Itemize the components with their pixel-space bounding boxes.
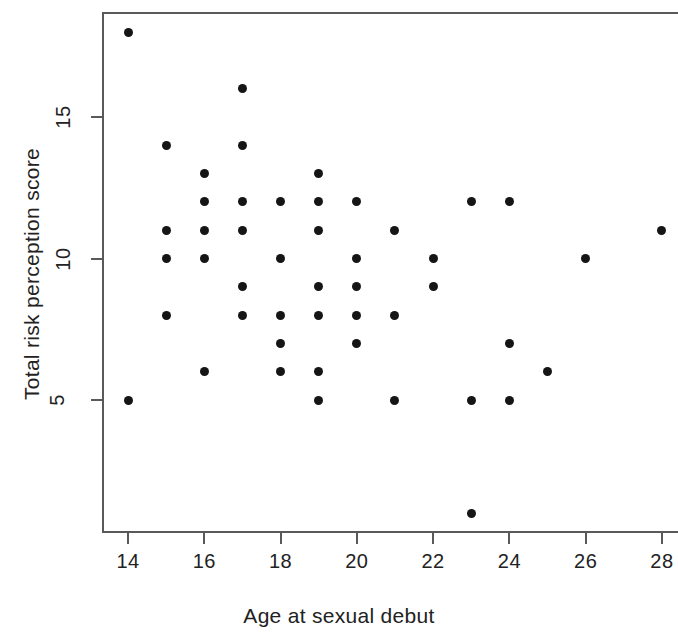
x-tick-label-14: 14 [116,550,139,573]
x-tick-26 [585,533,587,544]
x-tick-28 [661,533,663,544]
x-tick-label-22: 22 [421,550,444,573]
x-tick-label-26: 26 [574,550,597,573]
x-tick-20 [356,533,358,544]
y-tick-10 [91,258,102,260]
y-tick-label-15: 15 [52,105,75,128]
x-tick-label-20: 20 [345,550,368,573]
x-tick-22 [432,533,434,544]
y-tick-label-5: 5 [46,394,69,406]
y-tick-15 [91,116,102,118]
x-tick-label-24: 24 [498,550,521,573]
x-tick-18 [280,533,282,544]
x-tick-24 [508,533,510,544]
x-tick-label-28: 28 [650,550,673,573]
y-tick-5 [91,399,102,401]
x-axis-title: Age at sexual debut [0,604,678,628]
y-axis-title: Total risk perception score [20,124,44,424]
x-tick-16 [203,533,205,544]
scatter-plot-figure: Age at sexual debut Total risk perceptio… [0,0,678,634]
x-tick-label-16: 16 [193,550,216,573]
x-tick-label-18: 18 [269,550,292,573]
plot-panel [102,12,678,533]
y-tick-label-10: 10 [52,247,75,270]
x-tick-14 [127,533,129,544]
